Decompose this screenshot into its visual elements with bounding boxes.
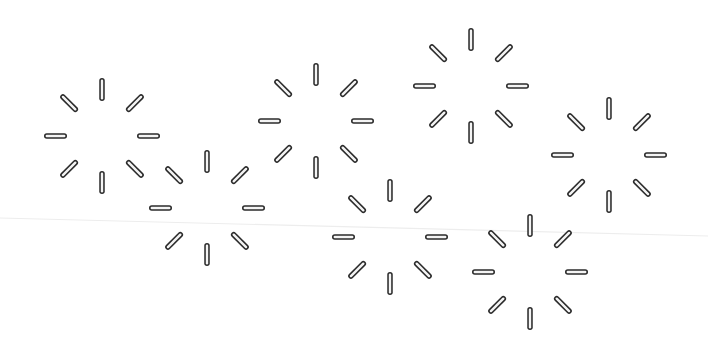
sparkle-canvas — [0, 0, 708, 350]
background — [0, 0, 708, 350]
